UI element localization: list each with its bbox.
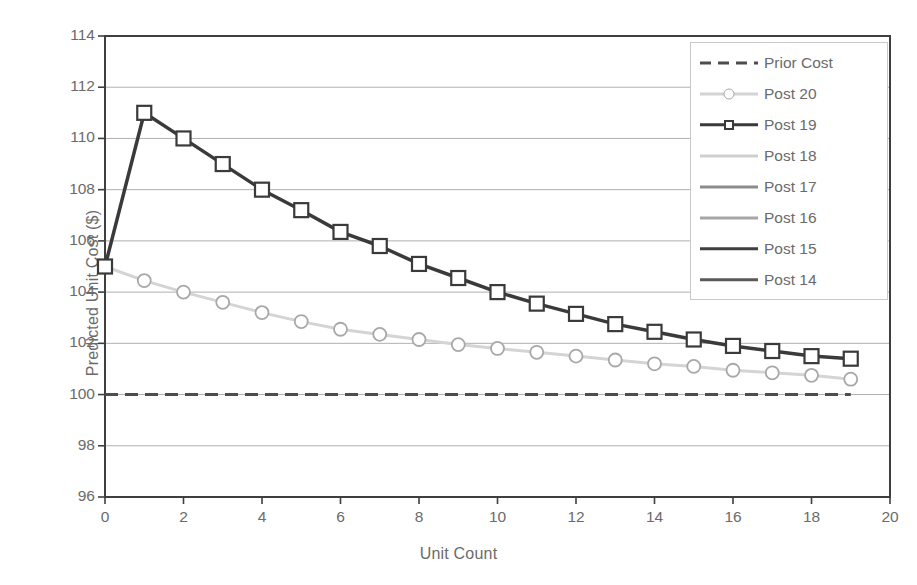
data-point-marker: [177, 286, 190, 299]
data-point-marker: [530, 297, 544, 311]
data-point-marker: [295, 315, 308, 328]
legend-swatch-icon: [700, 147, 758, 165]
data-point-marker: [609, 353, 622, 366]
legend-swatch-icon: [700, 116, 758, 134]
data-point-marker: [138, 274, 151, 287]
legend-item-post-18[interactable]: Post 18: [691, 140, 887, 171]
legend-marker-icon: [724, 88, 735, 99]
data-point-marker: [216, 157, 230, 171]
data-point-marker: [412, 257, 426, 271]
data-point-marker: [334, 225, 348, 239]
data-point-marker: [373, 328, 386, 341]
data-point-marker: [687, 360, 700, 373]
data-point-marker: [570, 350, 583, 363]
legend-item-post-19[interactable]: Post 19: [691, 109, 887, 140]
data-point-marker: [491, 342, 504, 355]
data-point-marker: [373, 239, 387, 253]
legend-swatch-icon: [700, 85, 758, 103]
data-point-marker: [491, 285, 505, 299]
legend-item-label: Post 14: [764, 271, 817, 289]
data-point-marker: [256, 306, 269, 319]
data-point-marker: [294, 203, 308, 217]
legend-item-label: Post 15: [764, 240, 817, 258]
legend-line: [700, 216, 758, 219]
data-point-marker: [216, 296, 229, 309]
legend-swatch-icon: [700, 271, 758, 289]
data-point-marker: [569, 307, 583, 321]
legend-line: [700, 154, 758, 157]
data-point-marker: [530, 346, 543, 359]
legend-item-label: Prior Cost: [764, 54, 833, 72]
legend-item-label: Post 16: [764, 209, 817, 227]
data-point-marker: [98, 260, 112, 274]
data-point-marker: [137, 106, 151, 120]
data-point-marker: [805, 369, 818, 382]
legend-item-post-15[interactable]: Post 15: [691, 233, 887, 264]
legend-swatch-icon: [700, 209, 758, 227]
chart-legend[interactable]: Prior CostPost 20Post 19Post 18Post 17Po…: [690, 42, 888, 300]
data-point-marker: [255, 183, 269, 197]
legend-line: [700, 61, 758, 64]
data-point-marker: [648, 357, 661, 370]
legend-item-post-17[interactable]: Post 17: [691, 171, 887, 202]
legend-item-label: Post 20: [764, 85, 817, 103]
data-point-marker: [766, 366, 779, 379]
legend-swatch-icon: [700, 54, 758, 72]
legend-item-label: Post 18: [764, 147, 817, 165]
legend-item-post-14[interactable]: Post 14: [691, 264, 887, 295]
legend-item-label: Post 17: [764, 178, 817, 196]
data-point-marker: [726, 339, 740, 353]
legend-line: [700, 247, 758, 251]
legend-item-label: Post 19: [764, 116, 817, 134]
data-point-marker: [727, 364, 740, 377]
legend-swatch-icon: [700, 178, 758, 196]
legend-item-prior-cost[interactable]: Prior Cost: [691, 47, 887, 78]
legend-line: [700, 185, 758, 188]
chart-container: Predicted Unit Cost ($) Unit Count 96981…: [0, 0, 917, 585]
legend-marker-icon: [724, 120, 734, 130]
data-point-marker: [765, 344, 779, 358]
data-point-marker: [805, 349, 819, 363]
data-point-marker: [451, 271, 465, 285]
data-point-marker: [608, 317, 622, 331]
data-point-marker: [452, 338, 465, 351]
data-point-marker: [844, 352, 858, 366]
data-point-marker: [413, 333, 426, 346]
legend-item-post-16[interactable]: Post 16: [691, 202, 887, 233]
legend-item-post-20[interactable]: Post 20: [691, 78, 887, 109]
data-point-marker: [687, 332, 701, 346]
data-point-marker: [334, 323, 347, 336]
data-point-marker: [844, 373, 857, 386]
legend-swatch-icon: [700, 240, 758, 258]
data-point-marker: [177, 131, 191, 145]
legend-line: [700, 278, 758, 282]
data-point-marker: [648, 325, 662, 339]
